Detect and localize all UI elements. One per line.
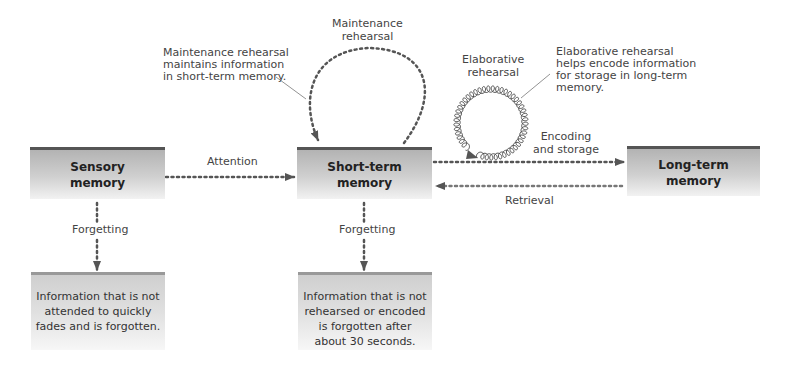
attention-label: Attention: [207, 155, 258, 169]
maintenance-callout: Maintenance rehearsal maintains informat…: [163, 47, 289, 83]
elaborative-coil-path: [454, 86, 528, 160]
forgetting-short-term-label: Forgetting: [339, 223, 395, 237]
long-term-memory-box: Long-term memory: [627, 146, 760, 196]
maintenance-rehearsal-loop: [310, 48, 425, 143]
sensory-forgetting-note: Information that is not attended to quic…: [31, 272, 165, 350]
elaborative-callout-line: [521, 74, 550, 98]
encoding-label: Encoding and storage: [533, 130, 599, 156]
sensory-memory-box: Sensory memory: [30, 147, 165, 199]
short-term-memory-box: Short-term memory: [297, 147, 432, 199]
retrieval-label: Retrieval: [505, 194, 554, 208]
elaborative-arrowhead: [466, 150, 478, 159]
elaborative-rehearsal-loop: [454, 86, 528, 160]
elaborative-callout: Elaborative rehearsal helps encode infor…: [556, 46, 696, 94]
maintenance-rehearsal-label: Maintenance rehearsal: [332, 17, 403, 43]
elaborative-rehearsal-label: Elaborative rehearsal: [462, 53, 524, 79]
short-term-forgetting-note: Information that is not rehearsed or enc…: [298, 272, 432, 350]
forgetting-sensory-label: Forgetting: [72, 223, 128, 237]
